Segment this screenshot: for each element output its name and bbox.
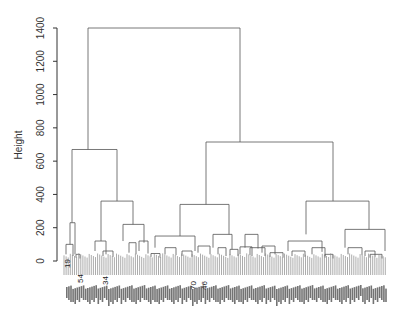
y-tick-label: 1000 — [35, 83, 46, 106]
leaf-label-illegible — [72, 289, 74, 302]
leaf-label-illegible — [318, 287, 320, 298]
leaf-label-illegible — [175, 287, 177, 300]
leaf-label-illegible — [98, 289, 100, 305]
leaf-label-illegible — [203, 286, 205, 299]
leaf-label-illegible — [87, 288, 89, 302]
leaf-label-illegible — [100, 288, 102, 300]
leaf-label-illegible — [335, 285, 337, 300]
leaf-label-illegible — [142, 286, 144, 298]
leaf-label-illegible — [179, 285, 181, 298]
leaf-label-illegible — [167, 285, 169, 300]
leaf-label-illegible — [249, 286, 251, 298]
leaf-label-illegible — [89, 287, 91, 304]
leaf-labels-dense — [66, 285, 387, 306]
leaf-label-illegible — [253, 289, 255, 300]
leaf-label-illegible — [297, 286, 299, 300]
leaf-label-illegible — [85, 289, 87, 300]
leaf-label-illegible — [356, 286, 358, 298]
leaf-label-illegible — [284, 286, 286, 302]
leaf-label-illegible — [276, 289, 278, 306]
dendrogram-branch — [245, 234, 258, 248]
leaf-label-illegible — [192, 289, 194, 306]
leaf-label-illegible — [66, 287, 68, 298]
y-tick-label: 600 — [35, 152, 46, 169]
leaf-label-illegible — [125, 287, 127, 302]
leaf-label-illegible — [329, 288, 331, 301]
leaf-label-illegible — [156, 289, 158, 302]
leaf-label-illegible — [287, 286, 289, 299]
y-tick-label: 1400 — [35, 16, 46, 39]
leaf-label-illegible — [270, 287, 272, 302]
leaf-label-illegible — [129, 286, 131, 300]
y-tick-label: 800 — [35, 119, 46, 136]
y-tick-label: 0 — [35, 258, 46, 264]
dendrogram-branch — [230, 249, 238, 256]
leaf-label-illegible — [177, 286, 179, 302]
leaf-label-illegible — [341, 287, 343, 304]
leaf-label-illegible — [232, 288, 234, 302]
leaf-label-illegible — [198, 287, 200, 300]
leaf-label-illegible — [184, 288, 186, 300]
leaf-label-illegible — [182, 289, 184, 305]
leaf-label-illegible — [77, 288, 79, 301]
leaf-label-illegible — [364, 288, 366, 304]
leaf-label-19: 19 — [63, 259, 72, 268]
leaf-label-illegible — [268, 288, 270, 300]
leaf-label-illegible — [144, 285, 146, 300]
leaf-label-illegible — [112, 288, 114, 304]
leaf-label-54: 54 — [76, 274, 85, 283]
leaf-label-illegible — [211, 287, 213, 298]
leaf-label-illegible — [247, 287, 249, 302]
leaf-label-illegible — [350, 289, 352, 305]
leaf-label-illegible — [358, 286, 360, 300]
leaf-label-illegible — [121, 289, 123, 304]
dendrogram-branch — [66, 244, 73, 256]
leaf-label-illegible — [373, 289, 375, 304]
y-tick-label: 1200 — [35, 50, 46, 73]
leaf-label-illegible — [293, 287, 295, 302]
leaf-label-illegible — [190, 286, 192, 300]
leaf-label-illegible — [238, 286, 240, 302]
leaf-label-illegible — [282, 287, 284, 300]
dendrogram-branch — [165, 248, 176, 255]
dendrogram-branch — [180, 204, 229, 236]
dendrogram-branch — [198, 246, 210, 254]
leaf-label-illegible — [362, 288, 364, 302]
leaf-label-illegible — [274, 286, 276, 300]
leaf-label-illegible — [259, 287, 261, 300]
leaf-label-illegible — [242, 288, 244, 304]
leaf-label-illegible — [116, 286, 118, 302]
leaf-label-illegible — [375, 288, 377, 300]
leaf-label-illegible — [123, 288, 125, 300]
dendrogram-leaves — [64, 253, 385, 275]
leaf-label-illegible — [347, 285, 349, 298]
leaf-label-illegible — [320, 286, 322, 300]
leaf-label-illegible — [108, 289, 110, 306]
leaf-label-illegible — [377, 287, 379, 302]
leaf-label-illegible — [135, 288, 137, 304]
leaf-label-illegible — [278, 288, 280, 302]
leaf-label-illegible — [119, 286, 121, 299]
leaf-label-34: 34 — [101, 276, 110, 285]
leaf-label-illegible — [385, 289, 387, 302]
leaf-label-illegible — [301, 289, 303, 302]
leaf-label-illegible — [308, 287, 310, 303]
leaf-label-illegible — [263, 285, 265, 298]
leaf-label-illegible — [230, 288, 232, 300]
leaf-label-illegible — [381, 286, 383, 300]
dendrogram-branch — [139, 241, 148, 253]
leaf-label-illegible — [95, 285, 97, 298]
leaf-label-illegible — [226, 286, 228, 298]
leaf-label-illegible — [205, 289, 207, 304]
leaf-label-illegible — [110, 288, 112, 302]
leaf-label-illegible — [255, 288, 257, 302]
leaf-label-illegible — [224, 287, 226, 303]
leaf-label-illegible — [371, 286, 373, 299]
leaf-label-illegible — [314, 288, 316, 300]
leaf-label-illegible — [272, 286, 274, 298]
leaf-label-illegible — [81, 286, 83, 298]
leaf-label-illegible — [266, 289, 268, 305]
leaf-label-illegible — [169, 289, 171, 300]
leaf-label-illegible — [324, 289, 326, 302]
leaf-label-illegible — [228, 285, 230, 300]
